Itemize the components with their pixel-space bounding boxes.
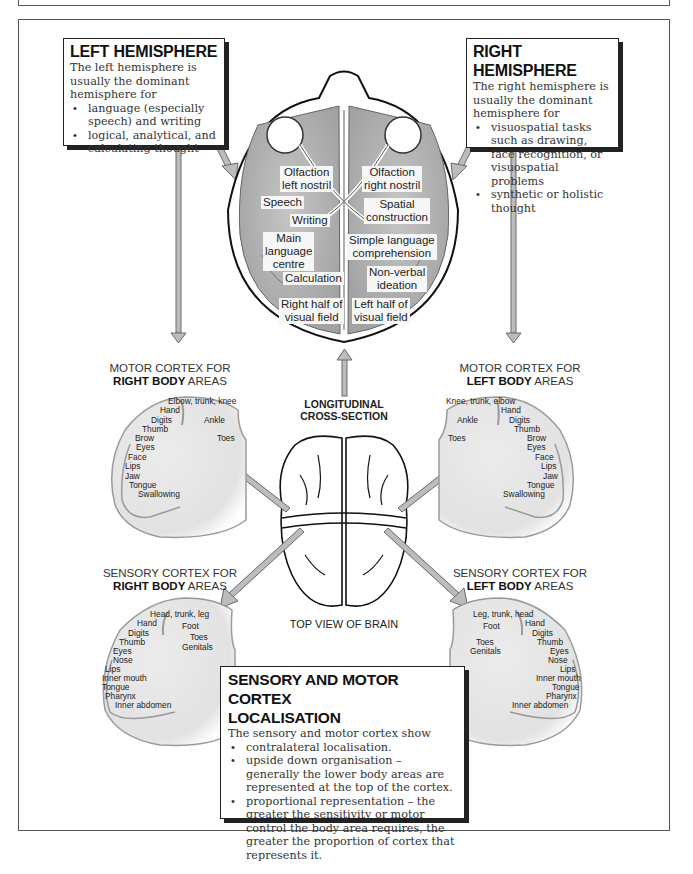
label-left-half-visual-field: Left half of visual field	[352, 298, 410, 324]
area-label: Toes	[217, 434, 235, 443]
area-label: Lips	[125, 462, 140, 471]
arrow-left-to-motor	[171, 143, 186, 343]
area-label: Hand	[501, 406, 521, 415]
left-hemisphere-callout: LEFT HEMISPHERE The left hemisphere is u…	[63, 38, 225, 146]
cross-section-caption: LONGITUDINAL CROSS-SECTION	[294, 398, 394, 422]
area-label: Inner abdomen	[512, 701, 568, 710]
label-speech: Speech	[261, 196, 304, 209]
motor-right-title: MOTOR CORTEX FOR RIGHT BODY AREAS	[95, 362, 245, 388]
right-hemisphere-title: RIGHT HEMISPHERE	[473, 42, 612, 80]
sensory-left-title: SENSORY CORTEX FOR LEFT BODY AREAS	[440, 567, 600, 593]
sensory-cortex-right-body-shape	[103, 598, 235, 745]
localisation-callout: SENSORY AND MOTOR CORTEX LOCALISATION Th…	[220, 666, 465, 819]
motor-left-title: MOTOR CORTEX FOR LEFT BODY AREAS	[445, 362, 595, 388]
label-main-language-centre: Main language centre	[263, 232, 314, 271]
area-label: Eyes	[136, 443, 155, 452]
label-simple-language-comprehension: Simple language comprehension	[347, 234, 437, 260]
right-hemisphere-intro: The right hemisphere is usually the domi…	[473, 80, 612, 121]
label-olfaction-left: Olfaction left nostril	[280, 166, 333, 192]
localisation-bullet: contralateral localisation.	[246, 741, 457, 755]
area-label: Inner abdomen	[115, 701, 171, 710]
left-hemisphere-title: LEFT HEMISPHERE	[70, 42, 218, 61]
area-label: Foot	[483, 622, 500, 631]
right-hemisphere-bullet: synthetic or holistic thought	[491, 188, 612, 215]
sensory-right-title: SENSORY CORTEX FOR RIGHT BODY AREAS	[90, 567, 250, 593]
area-label: Toes	[448, 434, 466, 443]
localisation-bullet: upside down organisation – generally the…	[246, 754, 457, 795]
area-label: Hand	[160, 406, 180, 415]
top-view-brain	[280, 436, 408, 606]
area-label: Ankle	[204, 416, 225, 425]
left-hemisphere-bullet: logical, analytical, and calculating tho…	[88, 129, 218, 156]
top-view-caption: TOP VIEW OF BRAIN	[284, 618, 404, 630]
area-label: Ankle	[457, 416, 478, 425]
left-hemisphere-bullet: language (especially speech) and writing	[88, 102, 218, 129]
localisation-bullet: proportional representation – the greate…	[246, 795, 457, 863]
label-writing: Writing	[290, 214, 330, 227]
area-label: Head, trunk, leg	[150, 610, 209, 619]
arrow-up-to-cross-section	[337, 349, 352, 396]
area-label: Genitals	[470, 647, 501, 656]
area-label: Lips	[541, 462, 556, 471]
label-spatial-construction: Spatial construction	[364, 198, 430, 224]
localisation-intro: The sensory and motor cortex show	[228, 727, 457, 741]
area-label: Genitals	[182, 643, 213, 652]
label-calculation: Calculation	[283, 272, 344, 285]
area-label: Foot	[182, 622, 199, 631]
label-right-half-visual-field: Right half of visual field	[279, 298, 344, 324]
label-non-verbal-ideation: Non-verbal ideation	[367, 266, 427, 292]
left-hemisphere-intro: The left hemisphere is usually the domin…	[70, 61, 218, 102]
area-label: Hand	[137, 619, 157, 628]
area-label: Swallowing	[138, 490, 180, 499]
area-label: Swallowing	[503, 490, 545, 499]
label-olfaction-right: Olfaction right nostril	[362, 166, 422, 192]
area-label: Toes	[190, 633, 208, 642]
area-label: Hand	[525, 619, 545, 628]
area-label: Eyes	[527, 443, 546, 452]
right-hemisphere-bullet: visuospatial tasks such as drawing, face…	[491, 121, 612, 189]
right-hemisphere-callout: RIGHT HEMISPHERE The right hemisphere is…	[466, 38, 619, 148]
localisation-title: SENSORY AND MOTOR CORTEX LOCALISATION	[228, 670, 457, 727]
